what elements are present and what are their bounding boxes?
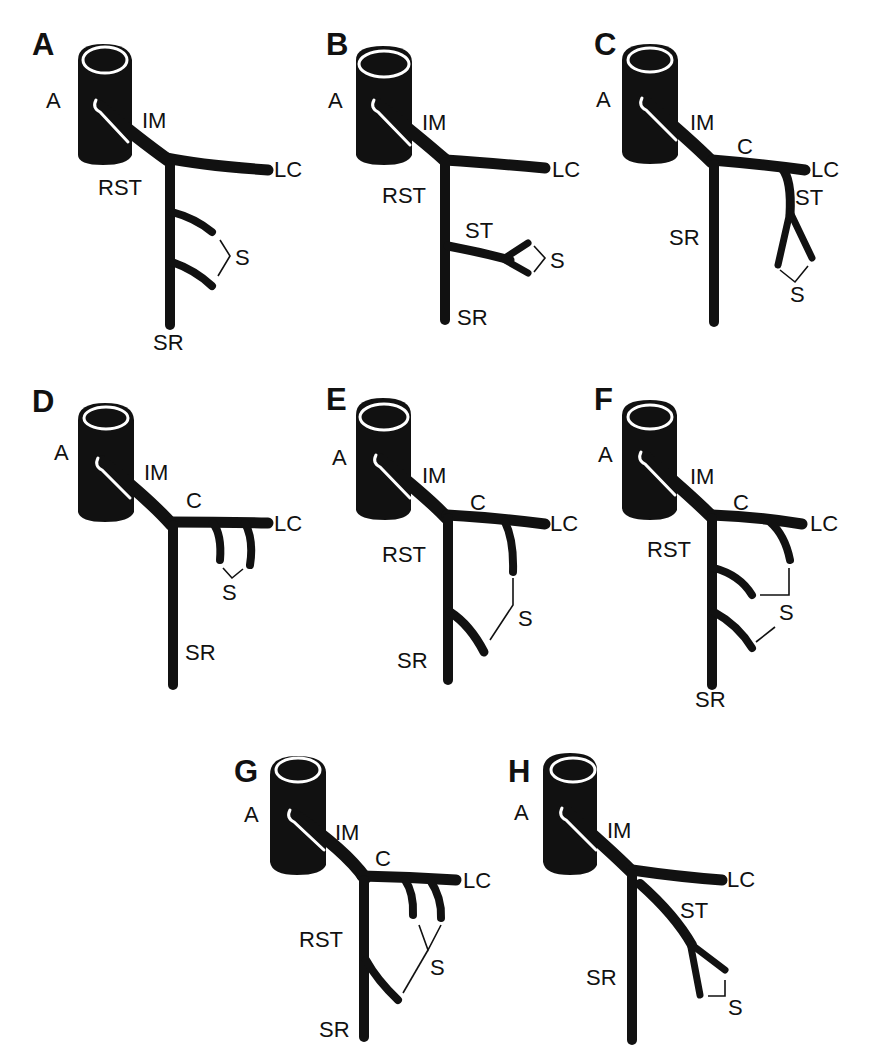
label-lc: LC bbox=[274, 511, 302, 536]
vessel-tree bbox=[375, 455, 545, 680]
panel-d: D A IM C LC S SR bbox=[32, 384, 302, 685]
label-im: IM bbox=[607, 818, 631, 843]
label-s: S bbox=[779, 600, 794, 625]
panel-letter: G bbox=[234, 754, 258, 789]
label-st: ST bbox=[465, 218, 493, 243]
vessel-branching-figure: A A IM LC RST S SR B bbox=[0, 0, 872, 1063]
label-rst: RST bbox=[382, 542, 426, 567]
label-s: S bbox=[518, 606, 533, 631]
label-lc: LC bbox=[552, 157, 580, 182]
panel-letter: A bbox=[32, 27, 54, 62]
label-rst: RST bbox=[647, 537, 691, 562]
panel-letter: E bbox=[326, 382, 347, 417]
label-s: S bbox=[430, 955, 445, 980]
label-im: IM bbox=[422, 110, 446, 135]
label-aorta: A bbox=[598, 442, 613, 467]
label-aorta: A bbox=[514, 800, 529, 825]
label-s: S bbox=[550, 248, 565, 273]
label-aorta: A bbox=[54, 440, 69, 465]
vessel-tree bbox=[97, 458, 268, 685]
label-c: C bbox=[186, 488, 202, 513]
label-sr: SR bbox=[457, 305, 488, 330]
label-aorta: A bbox=[596, 87, 611, 112]
panel-c: C A IM C LC ST SR S bbox=[594, 27, 839, 322]
label-sr: SR bbox=[695, 687, 726, 712]
label-sr: SR bbox=[185, 640, 216, 665]
label-sr: SR bbox=[397, 648, 428, 673]
label-lc: LC bbox=[463, 868, 491, 893]
panel-f: F A IM C LC RST S SR bbox=[594, 382, 838, 712]
panel-letter: F bbox=[594, 382, 613, 417]
label-aorta: A bbox=[244, 802, 259, 827]
panel-h: H A IM LC ST SR S bbox=[508, 753, 755, 1040]
label-im: IM bbox=[690, 464, 714, 489]
panel-letter: C bbox=[594, 27, 616, 62]
panel-letter: B bbox=[326, 27, 348, 62]
label-im: IM bbox=[422, 463, 446, 488]
label-c: C bbox=[470, 490, 486, 515]
label-c: C bbox=[733, 490, 749, 515]
label-st: ST bbox=[680, 898, 708, 923]
label-s: S bbox=[222, 580, 237, 605]
label-lc: LC bbox=[727, 867, 755, 892]
panel-a: A A IM LC RST S SR bbox=[32, 27, 302, 355]
vessel-tree bbox=[95, 100, 268, 325]
label-sr: SR bbox=[669, 225, 700, 250]
panel-letter: D bbox=[32, 384, 54, 419]
label-rst: RST bbox=[299, 927, 343, 952]
panel-g: G A IM C LC RST S SR bbox=[234, 754, 491, 1042]
label-s: S bbox=[728, 995, 743, 1020]
label-lc: LC bbox=[810, 511, 838, 536]
label-im: IM bbox=[144, 460, 168, 485]
label-rst: RST bbox=[382, 183, 426, 208]
label-sr: SR bbox=[319, 1017, 350, 1042]
label-sr: SR bbox=[586, 965, 617, 990]
label-rst: RST bbox=[98, 175, 142, 200]
label-sr: SR bbox=[153, 330, 184, 355]
label-s: S bbox=[235, 245, 250, 270]
label-lc: LC bbox=[274, 157, 302, 182]
label-im: IM bbox=[690, 110, 714, 135]
label-im: IM bbox=[142, 108, 166, 133]
label-c: C bbox=[375, 846, 391, 871]
label-aorta: A bbox=[332, 445, 347, 470]
label-st: ST bbox=[795, 185, 823, 210]
label-c: C bbox=[737, 134, 753, 159]
label-lc: LC bbox=[550, 511, 578, 536]
label-aorta: A bbox=[328, 88, 343, 113]
vessel-tree bbox=[641, 98, 812, 322]
label-lc: LC bbox=[811, 157, 839, 182]
label-im: IM bbox=[335, 820, 359, 845]
panel-letter: H bbox=[508, 754, 530, 789]
vessel-tree bbox=[373, 100, 545, 320]
label-s: S bbox=[790, 282, 805, 307]
panel-e: E A IM C LC RST S SR bbox=[326, 382, 578, 680]
panel-b: B A IM LC RST ST S SR bbox=[326, 27, 580, 330]
label-aorta: A bbox=[46, 88, 61, 113]
